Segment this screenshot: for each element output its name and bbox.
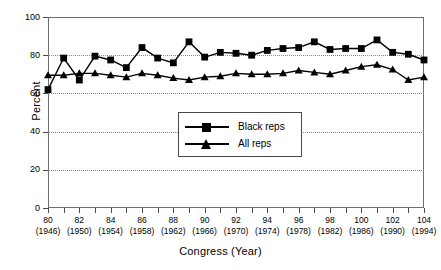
x-tick-mark-80 xyxy=(48,208,49,213)
data-point-0-101 xyxy=(374,37,381,44)
y-tick-label-40: 40 xyxy=(14,127,40,136)
x-tick-mark-95 xyxy=(283,208,284,213)
legend-label-black-reps: Black reps xyxy=(229,121,285,132)
data-point-0-98 xyxy=(327,46,334,53)
data-point-1-101 xyxy=(373,61,381,68)
x-tick-mark-89 xyxy=(189,208,190,213)
x-tick-mark-103 xyxy=(408,208,409,213)
data-point-0-96 xyxy=(295,44,302,51)
data-point-0-82 xyxy=(76,77,83,84)
data-point-0-80 xyxy=(45,86,52,93)
x-tick-mark-86 xyxy=(142,208,143,213)
chart-figure: Percent 020406080100 80(1946)82(1950)84(… xyxy=(0,0,441,270)
x-tick-mark-85 xyxy=(126,208,127,213)
y-tick-label-60: 60 xyxy=(14,89,40,98)
chart-legend: Black reps All reps xyxy=(178,112,302,157)
legend-marker-triangle xyxy=(185,137,229,151)
x-tick-year: (1994) xyxy=(397,226,441,237)
x-tick-mark-93 xyxy=(252,208,253,213)
x-tick-mark-102 xyxy=(393,208,394,213)
data-point-0-100 xyxy=(358,45,365,52)
data-point-0-94 xyxy=(264,47,271,54)
x-tick-mark-99 xyxy=(346,208,347,213)
data-point-0-88 xyxy=(170,59,177,66)
data-point-0-84 xyxy=(107,57,114,64)
data-point-0-86 xyxy=(139,44,146,51)
x-tick-mark-81 xyxy=(64,208,65,213)
data-point-0-93 xyxy=(248,52,255,59)
x-axis-ticks xyxy=(48,208,424,214)
x-tick-mark-84 xyxy=(111,208,112,213)
x-tick-mark-87 xyxy=(158,208,159,213)
data-point-0-81 xyxy=(60,55,67,62)
x-tick-mark-91 xyxy=(220,208,221,213)
legend-item-all-reps: All reps xyxy=(185,135,295,152)
data-point-1-96 xyxy=(295,66,303,73)
x-tick-mark-97 xyxy=(314,208,315,213)
legend-item-black-reps: Black reps xyxy=(185,118,295,135)
x-tick-mark-88 xyxy=(173,208,174,213)
data-point-0-83 xyxy=(92,53,99,60)
data-point-1-86 xyxy=(138,69,146,76)
x-tick-mark-92 xyxy=(236,208,237,213)
x-tick-mark-90 xyxy=(205,208,206,213)
y-tick-label-100: 100 xyxy=(14,13,40,22)
x-tick-mark-94 xyxy=(267,208,268,213)
data-point-0-103 xyxy=(405,51,412,58)
data-point-0-91 xyxy=(217,49,224,56)
data-point-0-87 xyxy=(154,55,161,62)
y-tick-label-80: 80 xyxy=(14,51,40,60)
legend-label-all-reps: All reps xyxy=(229,138,271,149)
x-tick-mark-96 xyxy=(299,208,300,213)
y-tick-label-0: 0 xyxy=(14,204,40,213)
series-line-0 xyxy=(48,40,424,90)
x-axis-title: Congress (Year) xyxy=(0,245,441,257)
data-point-0-102 xyxy=(389,49,396,56)
x-tick-label-104: 104(1994) xyxy=(397,215,441,237)
x-tick-congress: 104 xyxy=(397,215,441,226)
y-tick-label-20: 20 xyxy=(14,165,40,174)
x-tick-mark-100 xyxy=(361,208,362,213)
data-point-0-92 xyxy=(233,50,240,57)
data-point-0-89 xyxy=(186,38,193,45)
data-point-0-85 xyxy=(123,64,130,71)
data-point-0-99 xyxy=(342,45,349,52)
x-tick-mark-104 xyxy=(424,208,425,213)
data-point-0-104 xyxy=(421,57,428,64)
data-point-0-90 xyxy=(201,54,208,61)
data-point-0-97 xyxy=(311,38,318,45)
x-tick-mark-82 xyxy=(79,208,80,213)
x-tick-mark-98 xyxy=(330,208,331,213)
data-point-0-95 xyxy=(280,45,287,52)
x-tick-mark-101 xyxy=(377,208,378,213)
x-tick-mark-83 xyxy=(95,208,96,213)
legend-marker-square xyxy=(185,120,229,134)
